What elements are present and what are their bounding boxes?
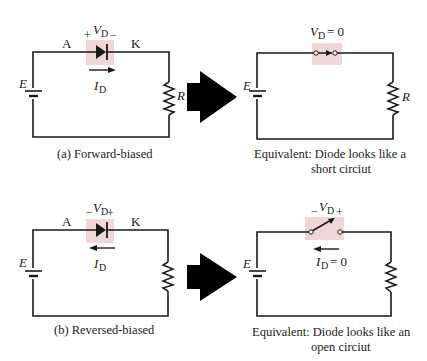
current-value: = 0 [330, 254, 347, 269]
current-subscript: D [99, 84, 106, 95]
resistor-label: R [401, 89, 410, 104]
polarity-left: − [86, 205, 93, 219]
caption-line1: Equivalent: Diode looks like a [254, 147, 407, 161]
circuit-wires [257, 53, 393, 139]
voltage-value: = 0 [327, 24, 344, 39]
cathode-label: K [131, 36, 141, 51]
caption: (b) Reversed-biased [54, 323, 155, 337]
voltage-subscript: D [318, 30, 325, 41]
panel-forward-equivalent: V D = 0 E R Equivalent: Diode looks like… [242, 24, 410, 176]
battery-icon [25, 271, 42, 276]
cathode-label: K [131, 214, 141, 229]
current-arrow-left-icon [313, 246, 339, 252]
voltage-subscript: D [327, 205, 334, 216]
voltage-subscript: D [101, 206, 108, 217]
source-label: E [18, 255, 27, 270]
current-subscript: D [321, 260, 328, 271]
caption-line2: open circiut [311, 340, 371, 354]
current-subscript: D [99, 262, 106, 273]
battery-icon [249, 91, 266, 96]
caption-line2: short circiut [311, 162, 372, 176]
resistor-icon [388, 82, 398, 115]
current-arrow-right-icon [89, 67, 116, 73]
polarity-left: + [84, 28, 91, 42]
big-right-arrow-icon [187, 71, 237, 123]
switch-highlight [305, 217, 344, 240]
panel-reverse-equivalent: − + V D I D = 0 E Equivalent: Diode look… [242, 199, 411, 354]
caption-line1: Equivalent: Diode looks like an [252, 325, 411, 339]
circuit-wires [257, 232, 391, 316]
source-label: E [242, 78, 251, 93]
panel-reverse-biased: A K − + V D I D E (b) Reversed-biased [18, 200, 173, 337]
anode-label: A [62, 36, 72, 51]
voltage-subscript: D [101, 28, 108, 39]
anode-label: A [62, 214, 72, 229]
polarity-right: + [336, 205, 343, 219]
polarity-left: − [311, 204, 318, 218]
resistor-icon [163, 262, 173, 291]
big-right-arrow-icon [187, 253, 237, 301]
panel-forward-biased: A K + − V D I D E R (a) Forward-biased [18, 22, 185, 161]
resistor-icon [164, 82, 174, 115]
source-label: E [242, 256, 251, 271]
resistor-icon [386, 262, 396, 292]
source-label: E [18, 76, 27, 91]
diode-bias-diagram: A K + − V D I D E R (a) Forward-biased [0, 0, 427, 361]
polarity-right: − [110, 28, 117, 42]
caption: (a) Forward-biased [57, 147, 153, 161]
battery-icon [25, 91, 42, 96]
resistor-label: R [176, 88, 185, 103]
battery-icon [249, 271, 266, 276]
current-arrow-left-icon [89, 245, 115, 251]
